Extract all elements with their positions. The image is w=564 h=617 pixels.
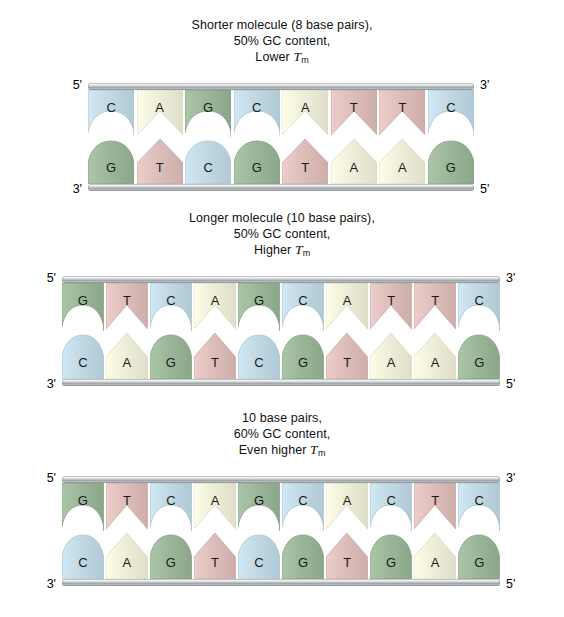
panel-1-base-bottom-3-letter: G: [234, 160, 280, 175]
panel-2-base-top-2: C: [150, 283, 192, 331]
panel-2-base-top-2-letter: C: [166, 283, 175, 308]
panel-3-base-bottom-2-letter: G: [150, 555, 192, 570]
panel-2-bottom-col-9: G: [458, 331, 500, 379]
panel-3-strand-bottom: C A: [62, 531, 500, 579]
panel-1-backbone-top: [88, 83, 474, 90]
panel-1-bottom-col-2: C: [185, 137, 231, 184]
panel-1-base-bottom-4-letter: T: [282, 160, 328, 175]
panel-2-backbone-top: [62, 276, 500, 283]
panel-2-bottom-col-2: G: [150, 331, 192, 379]
panel-3-base-top-6: A: [326, 483, 368, 531]
panel-3-base-top-8-letter: T: [431, 483, 439, 508]
panel-3-base-bottom-9: G: [458, 531, 500, 579]
panel-1-base-bottom-2-letter: C: [185, 160, 231, 175]
panel-1-base-top-5-letter: T: [350, 90, 358, 115]
panel-2-base-bottom-3: T: [194, 331, 236, 379]
panel-3-base-top-0-letter: G: [78, 483, 88, 508]
panel-1-caption-line1: Shorter molecule (8 base pairs),: [0, 18, 564, 34]
panel-1-base-top-2-letter: G: [203, 90, 213, 115]
panel-2-tm-symbol: Tm: [295, 242, 310, 257]
panel-1-base-top-3: C: [234, 90, 280, 137]
panel-1-base-bottom-7: G: [428, 137, 474, 184]
panel-2-base-top-4-letter: G: [254, 283, 264, 308]
panel-2-top-col-0: G: [62, 283, 104, 331]
panel-3-base-bottom-8: A: [414, 531, 456, 579]
panel-2-strand-top: G T: [62, 283, 500, 331]
panel-2-bottom-col-6: T: [326, 331, 368, 379]
panel-2-base-bottom-6: T: [326, 331, 368, 379]
panel-2-base-top-1-letter: T: [123, 283, 131, 308]
panel-1-top-col-4: A: [282, 90, 328, 137]
panel-2-tm-subscript: m: [303, 248, 311, 258]
panel-2-base-bottom-8: A: [414, 331, 456, 379]
panel-3-base-top-7-letter: C: [386, 483, 395, 508]
panel-1-bottom-col-3: G: [234, 137, 280, 184]
panel-1-base-top-1: A: [137, 90, 183, 137]
panel-1-bottom-col-5: A: [331, 137, 377, 184]
panel-3-base-top-5: C: [282, 483, 324, 531]
panel-1-base-bottom-3: G: [234, 137, 280, 184]
panel-3-base-top-8: T: [414, 483, 456, 531]
panel-2-base-top-6: A: [326, 283, 368, 331]
panel-3-label-bottom-left: 3': [47, 577, 56, 591]
panel-2-caption-line3: Higher Tm: [0, 242, 564, 260]
panel-3-caption-line2: 60% GC content,: [0, 427, 564, 443]
panel-3-base-top-2: C: [150, 483, 192, 531]
panel-2-base-top-4: G: [238, 283, 280, 331]
panel-2-label-top-right: 3': [506, 271, 515, 285]
panel-1-base-top-6: T: [379, 90, 425, 137]
panel-3-base-bottom-7: G: [370, 531, 412, 579]
panel-1-strand-bottom: G T: [88, 137, 474, 184]
panel-2-caption: Longer molecule (10 base pairs), 50% GC …: [0, 211, 564, 260]
panel-1-base-top-5: T: [331, 90, 377, 137]
panel-1-base-top-1-letter: A: [155, 90, 164, 115]
panel-1-top-col-2: G: [185, 90, 231, 137]
panel-2-base-top-6-letter: A: [343, 283, 352, 308]
panel-2-base-bottom-3-letter: T: [194, 355, 236, 370]
panel-3-base-bottom-6-letter: T: [326, 555, 368, 570]
panel-3-top-col-9: C: [458, 483, 500, 531]
panel-2-base-bottom-4: C: [238, 331, 280, 379]
panel-1-base-bottom-0: G: [88, 137, 134, 184]
panel-1-bottom-col-6: A: [379, 137, 425, 184]
panel-2-bottom-col-0: C: [62, 331, 104, 379]
panel-3-bottom-col-1: A: [106, 531, 148, 579]
panel-3-base-top-1: T: [106, 483, 148, 531]
panel-2-base-bottom-5: G: [282, 331, 324, 379]
panel-3-top-col-8: T: [414, 483, 456, 531]
panel-1-bottom-col-1: T: [137, 137, 183, 184]
panel-2-top-col-9: C: [458, 283, 500, 331]
panel-2-strand-bottom: C A: [62, 331, 500, 379]
panel-1-caption-line3-prefix: Lower: [255, 50, 293, 64]
panel-2-base-top-8-letter: T: [431, 283, 439, 308]
panel-2-base-bottom-2-letter: G: [150, 355, 192, 370]
panel-1-base-bottom-0-letter: G: [88, 160, 134, 175]
panel-3-top-col-1: T: [106, 483, 148, 531]
panel-3-base-bottom-2: G: [150, 531, 192, 579]
panel-1-top-col-0: C: [88, 90, 134, 137]
panel-2-base-bottom-9-letter: G: [458, 355, 500, 370]
panel-3-bottom-col-5: G: [282, 531, 324, 579]
panel-3-label-bottom-right: 5': [506, 577, 515, 591]
panel-2-base-top-1: T: [106, 283, 148, 331]
panel-2-base-bottom-0: C: [62, 331, 104, 379]
panel-1-base-top-4: A: [282, 90, 328, 137]
panel-3-top-col-4: G: [238, 483, 280, 531]
panel-2-base-bottom-1-letter: A: [106, 355, 148, 370]
panel-3-base-bottom-5-letter: G: [282, 555, 324, 570]
panel-3-base-top-4-letter: G: [254, 483, 264, 508]
panel-2-backbone-bottom: [62, 379, 500, 386]
panel-1-bottom-col-7: G: [428, 137, 474, 184]
panel-3-caption-line3: Even higher Tm: [0, 442, 564, 460]
panel-1-base-top-0-letter: C: [106, 90, 115, 115]
panel-3-base-bottom-6: T: [326, 531, 368, 579]
panel-2-molecule: 5'3'3'5' G: [62, 276, 500, 386]
panel-3-base-top-0: G: [62, 483, 104, 531]
panel-1-base-bottom-2: C: [185, 137, 231, 184]
panel-1-base-top-4-letter: A: [301, 90, 310, 115]
panel-1-tm-symbol: Tm: [293, 49, 308, 64]
panel-3-base-bottom-7-letter: G: [370, 555, 412, 570]
panel-2-top-col-7: T: [370, 283, 412, 331]
panel-3-base-top-9-letter: C: [475, 483, 484, 508]
panel-1-base-bottom-6-letter: A: [379, 160, 425, 175]
